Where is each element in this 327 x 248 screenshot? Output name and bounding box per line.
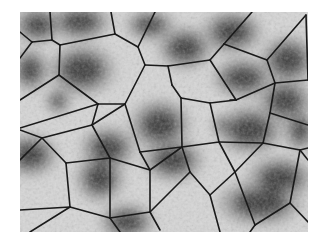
voronoi-edge <box>59 45 60 75</box>
voronoi-edge <box>181 98 182 147</box>
micrograph-canvas <box>0 0 327 248</box>
voronoi-edge <box>219 142 263 143</box>
voronoi-edge <box>145 65 168 66</box>
voronoi-micrograph <box>0 0 327 248</box>
